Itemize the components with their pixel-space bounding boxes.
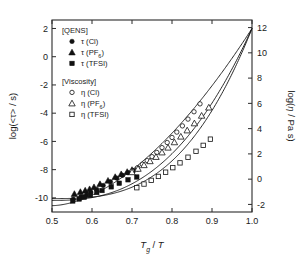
data-point — [82, 195, 86, 199]
data-point — [208, 137, 212, 141]
y-right-tick-label: 2 — [257, 149, 262, 159]
data-point — [171, 165, 175, 169]
legend-entry-label: τ (PF6) — [81, 48, 104, 59]
data-point — [69, 100, 75, 106]
y-right-tick-label: 4 — [257, 124, 262, 134]
data-point — [165, 140, 169, 144]
data-point — [191, 120, 197, 126]
data-point — [178, 133, 184, 139]
data-point — [77, 197, 81, 201]
data-point — [71, 199, 75, 203]
y-right-tick-label: 0 — [257, 174, 262, 184]
y-left-tick-label: 2 — [43, 24, 48, 34]
data-point — [70, 112, 74, 116]
data-point — [142, 182, 146, 186]
legend-entry-label: η (Cl) — [81, 88, 100, 97]
data-point — [178, 161, 182, 165]
y-right-tick-label: 8 — [257, 73, 262, 83]
data-point — [198, 102, 202, 106]
y-right-tick-label: 10 — [257, 48, 267, 58]
data-point — [170, 135, 174, 139]
data-point — [70, 90, 74, 94]
legend-marker-filled-triangle — [69, 49, 75, 55]
data-point — [165, 144, 171, 150]
data-point — [194, 149, 198, 153]
data-point — [175, 130, 179, 134]
series-3 — [130, 102, 202, 174]
data-point — [135, 175, 139, 179]
data-point — [163, 170, 167, 174]
x-axis-title: Tg / T — [140, 239, 165, 254]
data-point — [156, 174, 160, 178]
data-point — [70, 61, 74, 65]
figure-root: 0.50.60.70.80.91.020-2-4-6-8-10121086420… — [0, 0, 301, 266]
y-left-tick-label: -6 — [40, 137, 48, 147]
data-point — [186, 155, 190, 159]
data-point — [186, 117, 190, 121]
y-left-tick-label: 0 — [43, 52, 48, 62]
y-left-axis-title: log(<τ> / s) — [7, 93, 18, 140]
data-point — [184, 127, 190, 133]
data-point — [149, 178, 153, 182]
legend-marker-open-triangle — [69, 100, 75, 106]
data-point — [91, 184, 97, 190]
angell-plot-svg: 0.50.60.70.80.91.020-2-4-6-8-10121086420… — [0, 0, 301, 266]
data-point — [135, 186, 139, 190]
x-tick-label: 0.6 — [86, 216, 99, 226]
legend-entry-label: τ (TFSI) — [81, 59, 108, 68]
x-tick-label: 0.8 — [166, 216, 179, 226]
data-point — [126, 178, 130, 182]
x-tick-label: 0.7 — [126, 216, 139, 226]
y-left-tick-label: -8 — [40, 165, 48, 175]
data-point — [88, 193, 92, 197]
y-left-tick-label: -2 — [40, 80, 48, 90]
legend-marker-filled-square — [70, 61, 74, 65]
y-right-tick-label: -2 — [257, 200, 265, 210]
legend-group-header: [QENS] — [62, 26, 88, 35]
x-tick-label: 1.0 — [246, 216, 259, 226]
data-point — [159, 149, 165, 155]
data-point — [155, 150, 159, 154]
data-point — [201, 143, 205, 147]
data-point — [69, 49, 75, 55]
data-point — [100, 188, 104, 192]
data-point — [70, 39, 74, 43]
data-point — [180, 124, 184, 128]
y-right-tick-label: 12 — [257, 23, 267, 33]
legend-marker-open-circle — [70, 90, 74, 94]
legend-entry-label: η (PF6) — [81, 99, 106, 110]
data-point — [117, 181, 121, 185]
legend-entry-label: τ (Cl) — [81, 37, 99, 46]
y-right-axis-title: log(η / Pa s) — [286, 90, 297, 141]
y-left-tick-label: -10 — [35, 193, 48, 203]
legend-marker-filled-circle — [70, 39, 74, 43]
legend-entry-label: η (TFSI) — [81, 110, 109, 119]
x-tick-label: 0.9 — [206, 216, 219, 226]
data-point — [95, 190, 99, 194]
data-point — [192, 110, 196, 114]
legend-group-header: [Viscosity] — [62, 77, 96, 86]
data-point — [109, 185, 113, 189]
y-left-tick-label: -4 — [40, 108, 48, 118]
data-point — [71, 191, 77, 197]
x-tick-label: 0.5 — [46, 216, 59, 226]
legend-marker-open-square — [70, 112, 74, 116]
y-right-tick-label: 6 — [257, 99, 262, 109]
